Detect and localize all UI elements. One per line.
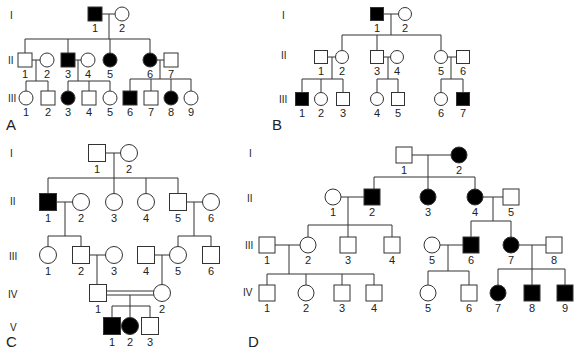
individual-number: 2	[318, 107, 324, 119]
individual-iii-6: 6	[463, 237, 479, 266]
unaffected-male-square-icon	[340, 237, 356, 253]
individual-iii-3: 3	[337, 93, 350, 119]
individual-ii-4: 4	[391, 51, 404, 77]
individual-number: 2	[78, 212, 84, 224]
affected-male-square-icon	[104, 318, 121, 335]
individual-ii-3: 3	[106, 194, 123, 224]
unaffected-male-square-icon	[41, 91, 55, 105]
individual-number: 1	[92, 22, 98, 34]
unaffected-male-square-icon	[384, 237, 400, 253]
panel-label: D	[248, 333, 259, 350]
unaffected-female-circle-icon	[424, 237, 440, 253]
individual-number: 3	[111, 212, 117, 224]
individual-number: 3	[374, 65, 380, 77]
individual-iv-2: 2	[298, 285, 314, 314]
individual-ii-6: 6	[143, 53, 157, 80]
unaffected-male-square-icon	[334, 285, 350, 301]
generation-label: II	[247, 193, 253, 204]
individual-v-1: 1	[104, 318, 121, 348]
individual-ii-3: 3	[371, 51, 384, 77]
affected-female-circle-icon	[420, 189, 436, 205]
individual-i-1: 1	[396, 147, 412, 176]
individual-iii-2: 2	[300, 237, 316, 266]
affected-male-square-icon	[457, 93, 470, 106]
individual-number: 1	[109, 336, 115, 348]
individual-number: 2	[119, 22, 125, 34]
individual-number: 4	[389, 254, 395, 266]
individual-number: 2	[339, 65, 345, 77]
unaffected-male-square-icon	[392, 93, 405, 106]
individual-number: 4	[85, 68, 91, 80]
individual-number: 2	[159, 303, 165, 315]
individual-i-1: 1	[89, 145, 106, 175]
individual-ii-3: 3	[420, 189, 436, 218]
affected-female-circle-icon	[103, 53, 117, 67]
individual-number: 1	[23, 106, 29, 118]
unaffected-male-square-icon	[73, 247, 90, 264]
individual-number: 4	[86, 106, 92, 118]
individual-ii-5: 5	[103, 53, 117, 80]
individual-iii-3: 3	[106, 247, 123, 277]
individual-number: 6	[147, 68, 153, 80]
unaffected-male-square-icon	[164, 53, 178, 67]
unaffected-female-circle-icon	[435, 51, 448, 64]
generation-label: IV	[8, 289, 18, 300]
individual-number: 7	[508, 254, 514, 266]
individual-number: 3	[65, 68, 71, 80]
individual-ii-2: 2	[336, 51, 349, 77]
generation-label: I	[10, 148, 13, 159]
unaffected-female-circle-icon	[121, 145, 138, 162]
individual-number: 1	[374, 22, 380, 34]
individual-ii-5: 5	[170, 194, 187, 224]
pedigree-panel-c: 1212345612345612123IIIIIIIVVC	[6, 145, 220, 351]
individual-number: 5	[175, 212, 181, 224]
individual-iv-1: 1	[259, 285, 275, 314]
unaffected-male-square-icon	[546, 237, 562, 253]
affected-male-square-icon	[88, 7, 102, 21]
individual-number: 4	[394, 65, 400, 77]
affected-male-square-icon	[296, 93, 309, 106]
individual-i-2: 2	[451, 147, 467, 176]
unaffected-female-circle-icon	[203, 194, 220, 211]
individual-ii-4: 4	[138, 194, 155, 224]
individual-number: 2	[456, 164, 462, 176]
generation-label: I	[10, 10, 13, 21]
individual-number: 7	[495, 302, 501, 314]
individual-iii-7: 7	[457, 93, 470, 119]
unaffected-male-square-icon	[396, 147, 412, 163]
pedigree-figure: 121234567123456789IIIIIIA121234561234567…	[0, 0, 579, 352]
individual-number: 5	[425, 302, 431, 314]
unaffected-male-square-icon	[371, 51, 384, 64]
individual-number: 7	[148, 106, 154, 118]
individual-number: 3	[339, 302, 345, 314]
unaffected-female-circle-icon	[298, 285, 314, 301]
individual-iii-6: 6	[435, 93, 448, 119]
affected-female-circle-icon	[503, 237, 519, 253]
individual-number: 7	[460, 107, 466, 119]
individual-iii-8: 8	[164, 91, 178, 118]
individual-number: 2	[45, 106, 51, 118]
individual-iii-5: 5	[424, 237, 440, 266]
individual-iii-5: 5	[392, 93, 405, 119]
individual-ii-1: 1	[325, 189, 341, 218]
individual-ii-7: 7	[164, 53, 178, 80]
generation-label: III	[8, 93, 16, 104]
unaffected-male-square-icon	[18, 53, 32, 67]
unaffected-female-circle-icon	[420, 285, 436, 301]
individual-iii-4: 4	[371, 93, 384, 119]
individual-iv-6: 6	[461, 285, 477, 314]
individual-iii-1: 1	[259, 237, 275, 266]
individual-number: 8	[551, 254, 557, 266]
individual-iii-1: 1	[296, 93, 309, 119]
individual-iii-4: 4	[384, 237, 400, 266]
unaffected-female-circle-icon	[19, 91, 33, 105]
individual-number: 2	[44, 68, 50, 80]
individual-ii-3: 3	[61, 53, 75, 80]
individual-ii-2: 2	[73, 194, 90, 224]
individual-iii-2: 2	[315, 93, 328, 119]
individual-number: 9	[188, 106, 194, 118]
individual-number: 1	[45, 265, 51, 277]
individual-iii-2: 2	[41, 91, 55, 118]
unaffected-female-circle-icon	[300, 237, 316, 253]
unaffected-male-square-icon	[203, 247, 220, 264]
